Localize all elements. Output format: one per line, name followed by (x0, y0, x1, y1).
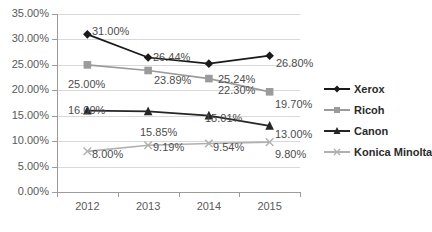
data-label: 16.00% (68, 104, 105, 116)
legend-item-ricoh[interactable]: Ricoh (324, 99, 423, 120)
legend-marker-square-icon (333, 106, 341, 114)
data-point (144, 67, 152, 75)
legend-item-canon[interactable]: Canon (324, 120, 423, 141)
legend-item-konica-minolta[interactable]: Konica Minolta (324, 141, 423, 162)
legend-key (324, 104, 350, 116)
legend-item-xerox[interactable]: Xerox (324, 78, 423, 99)
data-label: 23.89% (154, 74, 191, 86)
data-point (205, 75, 213, 83)
data-label: 13.00% (275, 128, 312, 140)
data-label: 15.85% (140, 126, 177, 138)
data-label: 22.30% (218, 84, 255, 96)
legend-marker-x-icon (333, 148, 341, 156)
data-label: 9.80% (275, 148, 306, 160)
data-label: 8.00% (92, 148, 123, 160)
legend-label: Konica Minolta (354, 146, 432, 158)
legend-label: Canon (354, 125, 388, 137)
data-label: 19.70% (275, 98, 312, 110)
data-label: 25.00% (68, 78, 105, 90)
legend-marker-triangle-icon (333, 127, 341, 135)
data-point (144, 53, 153, 62)
legend-label: Ricoh (354, 104, 385, 116)
data-point (265, 51, 274, 60)
data-label: 26.44% (153, 51, 190, 63)
series-canon (83, 106, 274, 130)
data-point (84, 61, 92, 69)
data-label: 26.80% (276, 57, 313, 69)
data-label: 31.00% (92, 25, 129, 37)
legend-key (324, 125, 350, 137)
data-point (205, 59, 214, 68)
data-point (266, 88, 274, 96)
legend-key (324, 83, 350, 95)
data-point (83, 30, 92, 39)
legend-marker-diamond-icon (333, 85, 341, 93)
legend-label: Xerox (354, 83, 385, 95)
legend-key (324, 146, 350, 158)
data-label: 15.01% (205, 112, 242, 124)
data-label: 9.19% (153, 141, 184, 153)
chart-legend: XeroxRicohCanonKonica Minolta (324, 78, 423, 162)
data-label: 9.54% (213, 141, 244, 153)
